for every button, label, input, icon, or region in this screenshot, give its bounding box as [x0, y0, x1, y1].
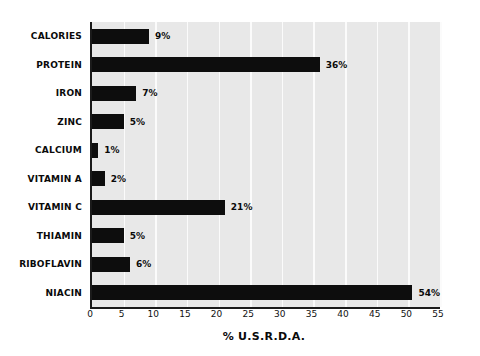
x-tick-label: 50: [401, 309, 412, 319]
bar-row: 5%: [92, 222, 440, 251]
bar: [92, 171, 105, 186]
bar: [92, 200, 225, 215]
category-label: CALORIES: [31, 31, 82, 41]
category-label-cell: RIBOFLAVIN: [0, 250, 88, 279]
x-axis-title: % U.S.R.D.A.: [90, 330, 438, 343]
x-tick-label: 20: [211, 309, 222, 319]
bar: [92, 57, 320, 72]
category-label-cell: VITAMIN C: [0, 193, 88, 222]
bar-chart-figure: CALORIESPROTEINIRONZINCCALCIUMVITAMIN AV…: [0, 0, 480, 356]
category-label-cell: CALORIES: [0, 22, 88, 51]
x-tick-label: 0: [87, 309, 93, 319]
bar-value-label: 7%: [142, 88, 157, 98]
category-label-cell: NIACIN: [0, 279, 88, 308]
bar: [92, 228, 124, 243]
category-label: VITAMIN A: [28, 174, 82, 184]
bar-value-label: 21%: [231, 202, 253, 212]
category-label: RIBOFLAVIN: [19, 259, 82, 269]
bar: [92, 143, 98, 158]
bar-row: 54%: [92, 279, 440, 308]
x-tick-label: 25: [242, 309, 253, 319]
x-tick-label: 45: [369, 309, 380, 319]
bar-value-label: 5%: [130, 117, 145, 127]
bar-row: 1%: [92, 136, 440, 165]
x-tick-label: 55: [432, 309, 443, 319]
bars-layer: 9%36%7%5%1%2%21%5%6%54%: [92, 22, 440, 307]
category-label-cell: CALCIUM: [0, 136, 88, 165]
bar-row: 5%: [92, 108, 440, 137]
bar-value-label: 36%: [326, 60, 348, 70]
bar-value-label: 5%: [130, 231, 145, 241]
category-label-cell: PROTEIN: [0, 51, 88, 80]
plot-area: 9%36%7%5%1%2%21%5%6%54%: [90, 22, 440, 309]
category-label: CALCIUM: [35, 145, 82, 155]
bar-value-label: 2%: [111, 174, 126, 184]
bar: [92, 114, 124, 129]
bar-row: 9%: [92, 22, 440, 51]
bar: [92, 29, 149, 44]
x-tick-label: 5: [119, 309, 125, 319]
gridline: [440, 22, 442, 307]
bar-value-label: 9%: [155, 31, 170, 41]
category-label-cell: ZINC: [0, 108, 88, 137]
bar-row: 6%: [92, 250, 440, 279]
category-label: NIACIN: [45, 288, 82, 298]
category-label: IRON: [56, 88, 82, 98]
x-tick-label: 35: [306, 309, 317, 319]
x-tick-label: 10: [148, 309, 159, 319]
x-tick-label: 15: [179, 309, 190, 319]
bar-value-label: 54%: [418, 288, 440, 298]
bar-value-label: 6%: [136, 259, 151, 269]
category-label-cell: IRON: [0, 79, 88, 108]
x-tick-label: 40: [337, 309, 348, 319]
value-axis: 0510152025303540455055: [90, 309, 438, 325]
category-label: PROTEIN: [36, 60, 82, 70]
bar: [92, 86, 136, 101]
bar-row: 21%: [92, 193, 440, 222]
bar: [92, 257, 130, 272]
bar: [92, 285, 412, 300]
x-tick-label: 30: [274, 309, 285, 319]
category-label: VITAMIN C: [28, 202, 82, 212]
category-label-cell: VITAMIN A: [0, 165, 88, 194]
bar-row: 2%: [92, 165, 440, 194]
bar-row: 7%: [92, 79, 440, 108]
category-axis: CALORIESPROTEINIRONZINCCALCIUMVITAMIN AV…: [0, 22, 88, 307]
category-label-cell: THIAMIN: [0, 222, 88, 251]
bar-row: 36%: [92, 51, 440, 80]
category-label: ZINC: [57, 117, 82, 127]
bar-value-label: 1%: [104, 145, 119, 155]
category-label: THIAMIN: [37, 231, 82, 241]
